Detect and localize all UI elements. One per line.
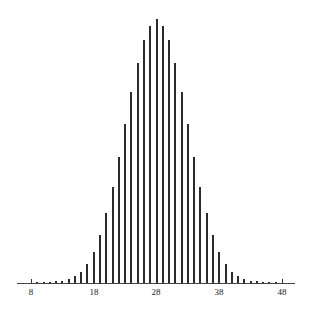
stem-35: [199, 187, 201, 283]
stem-15: [74, 276, 76, 283]
stem-29: [162, 26, 164, 283]
stem-44: [256, 281, 258, 283]
stem-42: [243, 279, 245, 283]
stem-14: [68, 279, 70, 283]
stem-25: [137, 63, 139, 283]
stem-22: [118, 157, 120, 283]
stem-36: [206, 213, 208, 283]
stem-20: [105, 213, 107, 283]
stem-39: [225, 264, 227, 283]
stem-34: [193, 157, 195, 283]
x-tick-48: [282, 279, 283, 283]
stem-13: [61, 281, 63, 283]
x-axis-line: [17, 283, 295, 284]
stem-37: [212, 235, 214, 283]
stem-21: [112, 187, 114, 283]
x-tick-18: [94, 279, 95, 283]
stem-19: [99, 235, 101, 283]
stem-11: [49, 282, 51, 283]
stem-33: [187, 124, 189, 283]
stem-45: [262, 282, 264, 283]
x-tick-label-8: 8: [29, 287, 34, 297]
stem-31: [174, 63, 176, 283]
stem-40: [231, 272, 233, 283]
x-tick-28: [157, 279, 158, 283]
stem-24: [130, 92, 132, 283]
stem-46: [268, 282, 270, 283]
stem-43: [250, 281, 252, 283]
stem-23: [124, 124, 126, 283]
stem-47: [275, 282, 277, 283]
stem-16: [80, 272, 82, 283]
x-tick-label-18: 18: [90, 287, 99, 297]
x-tick-8: [31, 279, 32, 283]
stem-12: [55, 281, 57, 283]
stem-26: [143, 40, 145, 283]
stem-41: [237, 276, 239, 283]
stem-32: [181, 92, 183, 283]
stem-plot: 8 18 28 38 48: [0, 0, 311, 310]
stem-10: [43, 282, 45, 283]
stem-9: [36, 282, 38, 283]
stem-30: [168, 40, 170, 283]
x-tick-38: [219, 279, 220, 283]
stem-17: [86, 264, 88, 283]
stem-27: [149, 26, 151, 283]
x-tick-label-28: 28: [152, 287, 161, 297]
x-tick-label-48: 48: [278, 287, 287, 297]
x-tick-label-38: 38: [215, 287, 224, 297]
stem-28: [156, 19, 158, 283]
